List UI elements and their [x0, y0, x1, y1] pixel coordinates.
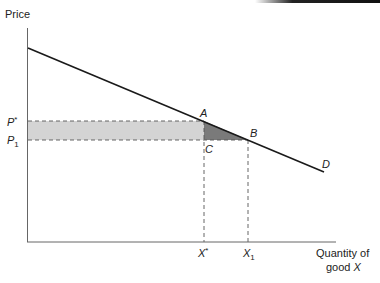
point-b-label: B [250, 127, 257, 139]
p1-label: P1 [7, 134, 19, 149]
point-a-label: A [199, 107, 207, 119]
y-axis-label: Price [5, 8, 30, 20]
x1-label: X1 [242, 247, 255, 262]
point-c-label: C [205, 143, 213, 155]
demand-curve-label: D [322, 158, 330, 170]
x-axis-label-line1: Quantity of [316, 247, 370, 259]
x-axis-label-line2: good X [326, 261, 362, 273]
p-star-label: P* [7, 115, 17, 128]
demand-curve [28, 48, 324, 172]
x-star-label: X* [197, 246, 208, 259]
demand-diagram: Price P* P1 A B C D X* X1 Quantity of go… [0, 0, 380, 283]
shaded-rectangle [28, 121, 204, 140]
